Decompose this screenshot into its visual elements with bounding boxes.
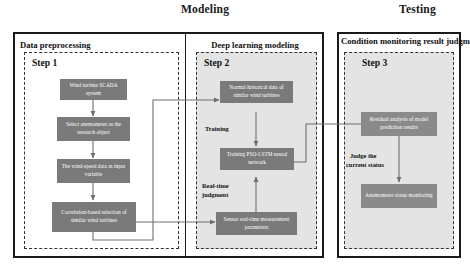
node-wind-turbine-scada-system[interactable]: Wind turbine SCADA system: [60, 79, 127, 100]
phase-title-testing: Testing: [370, 3, 465, 15]
panel-label-deep-learning: Deep learning modeling: [190, 40, 320, 50]
edge-label-current-status: current status: [346, 161, 384, 169]
node-normal-historical-data[interactable]: Normal historical data of similar wind t…: [220, 81, 293, 103]
panel-label-data-preprocessing: Data preprocessing: [20, 40, 91, 50]
edge-label-training: Training: [205, 125, 229, 133]
stepbox-step-3: [344, 52, 454, 249]
node-wind-speed-input-variable[interactable]: The wind-speed data as input variable: [57, 159, 130, 183]
edge-label-real-time: Real-time: [202, 182, 229, 190]
flowchart-root: Modeling Testing Data preprocessing Deep…: [0, 0, 470, 272]
edge-label-judge-the: Judge the: [350, 152, 376, 160]
node-correlation-based-selection[interactable]: Correlation-based selection of similar w…: [52, 202, 136, 232]
node-sensor-real-time-parameters[interactable]: Sensor real-time measurement parameters: [216, 212, 297, 235]
step-label-1: Step 1: [32, 57, 57, 68]
panel-label-condition-monitoring: Condition monitoring result judgment: [341, 36, 457, 48]
node-select-anemometer[interactable]: Select anemometer as the research object: [57, 117, 130, 141]
step-label-3: Step 3: [362, 57, 387, 68]
node-residual-analysis[interactable]: Residual analysis of model prediction re…: [361, 112, 437, 136]
phase-title-modeling: Modeling: [120, 3, 290, 15]
panel-divider: [185, 34, 186, 256]
step-label-2: Step 2: [204, 57, 229, 68]
node-training-pso-lstm[interactable]: Training PSO-LSTM neural network: [220, 148, 294, 170]
node-anemometer-status-monitoring[interactable]: Anemometer status monitoring: [361, 184, 437, 208]
edge-label-judgment: judgment: [202, 191, 228, 199]
